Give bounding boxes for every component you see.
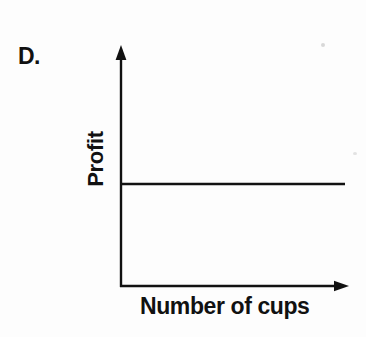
worksheet-figure-d: D. Profit Number of cups [0,0,366,337]
x-axis-arrowhead-icon [334,281,349,291]
y-axis-arrowhead-icon [116,45,127,60]
plot-area [0,0,366,337]
scan-speck-top [321,43,325,47]
plot-svg [0,0,366,337]
x-axis-label: Number of cups [140,294,309,318]
scan-speck-right [353,152,357,155]
y-axis-label: Profit [85,117,107,201]
